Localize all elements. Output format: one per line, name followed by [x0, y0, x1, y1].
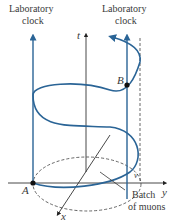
spacetime-diagram: Laboratory clock Laboratory clock t y x …	[0, 0, 175, 222]
lab-clock-right-label-2: clock	[115, 15, 137, 26]
point-A	[30, 180, 35, 185]
batch-label-1: Batch	[132, 189, 155, 200]
base-orbit-ellipse	[33, 157, 141, 211]
x-axis-label: x	[60, 210, 66, 222]
lab-clock-right-label-1: Laboratory	[102, 3, 146, 14]
velocity-label: v	[134, 171, 138, 180]
batch-label-2: of muons	[128, 201, 166, 212]
lab-clock-left-label-2: clock	[22, 15, 44, 26]
lab-clock-left-label-1: Laboratory	[9, 3, 53, 14]
point-B-label: B	[117, 74, 124, 86]
batch-pointer-line	[100, 172, 125, 190]
t-axis-label: t	[77, 29, 81, 41]
point-A-label: A	[21, 184, 29, 196]
point-B	[124, 82, 129, 87]
y-axis-label: y	[161, 186, 167, 198]
x-axis	[58, 135, 110, 214]
